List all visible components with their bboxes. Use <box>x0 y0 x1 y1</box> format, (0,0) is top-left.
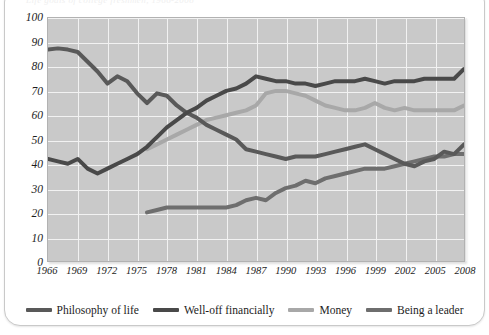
legend-item[interactable]: Well-off financially <box>153 304 275 316</box>
y-axis-tick-label: 100 <box>3 11 43 23</box>
x-axis-tick-label: 1984 <box>216 265 237 276</box>
x-axis-tick-label: 1993 <box>305 265 326 276</box>
legend-label: Well-off financially <box>184 304 275 316</box>
series-line <box>147 154 464 212</box>
series-line <box>48 69 464 173</box>
legend-label: Money <box>319 304 352 316</box>
x-axis-tick-label: 1966 <box>37 265 58 276</box>
series-layer <box>48 18 464 261</box>
x-axis-tick-label: 1972 <box>96 265 117 276</box>
plot-area <box>47 17 465 262</box>
gridline-vertical <box>466 18 467 261</box>
x-axis-tick-label: 1975 <box>126 265 147 276</box>
x-axis-tick-label: 1978 <box>156 265 177 276</box>
x-axis-tick-label: 1981 <box>186 265 207 276</box>
legend-swatch-icon <box>366 308 392 313</box>
x-axis-tick-label: 1990 <box>275 265 296 276</box>
x-axis-tick-label: 2008 <box>455 265 476 276</box>
x-axis-tick-label: 1987 <box>246 265 267 276</box>
x-axis-tick-label: 2005 <box>425 265 446 276</box>
x-axis-tick-label: 1969 <box>66 265 87 276</box>
y-axis-tick-label: 80 <box>3 60 43 72</box>
legend-item[interactable]: Philosophy of life <box>26 304 139 316</box>
plot-wrapper <box>47 17 465 262</box>
y-axis-tick-label: 30 <box>3 183 43 195</box>
y-axis: 0102030405060708090100 <box>0 17 43 262</box>
legend-swatch-icon <box>153 308 179 313</box>
chart-figure: Life goals of college freshmen, 1966-200… <box>0 0 489 335</box>
legend-item[interactable]: Being a leader <box>366 304 463 316</box>
y-axis-tick-label: 20 <box>3 207 43 219</box>
y-axis-tick-label: 50 <box>3 134 43 146</box>
x-axis-tick-label: 2002 <box>395 265 416 276</box>
legend-swatch-icon <box>288 308 314 313</box>
x-axis: 1966196919721975197819811984198719901993… <box>47 265 465 281</box>
y-axis-tick-label: 10 <box>3 232 43 244</box>
y-axis-tick-label: 60 <box>3 109 43 121</box>
legend-swatch-icon <box>26 308 52 313</box>
series-line <box>147 91 464 149</box>
y-axis-tick-label: 70 <box>3 85 43 97</box>
chart-legend: Philosophy of lifeWell-off financiallyMo… <box>24 300 465 320</box>
legend-label: Being a leader <box>397 304 463 316</box>
legend-item[interactable]: Money <box>288 304 352 316</box>
legend-label: Philosophy of life <box>57 304 139 316</box>
y-axis-tick-label: 40 <box>3 158 43 170</box>
y-axis-tick-label: 90 <box>3 36 43 48</box>
x-axis-tick-label: 1999 <box>365 265 386 276</box>
clipped-title-text: Life goals of college freshmen, 1966-200… <box>26 0 194 5</box>
x-axis-tick-label: 1996 <box>335 265 356 276</box>
